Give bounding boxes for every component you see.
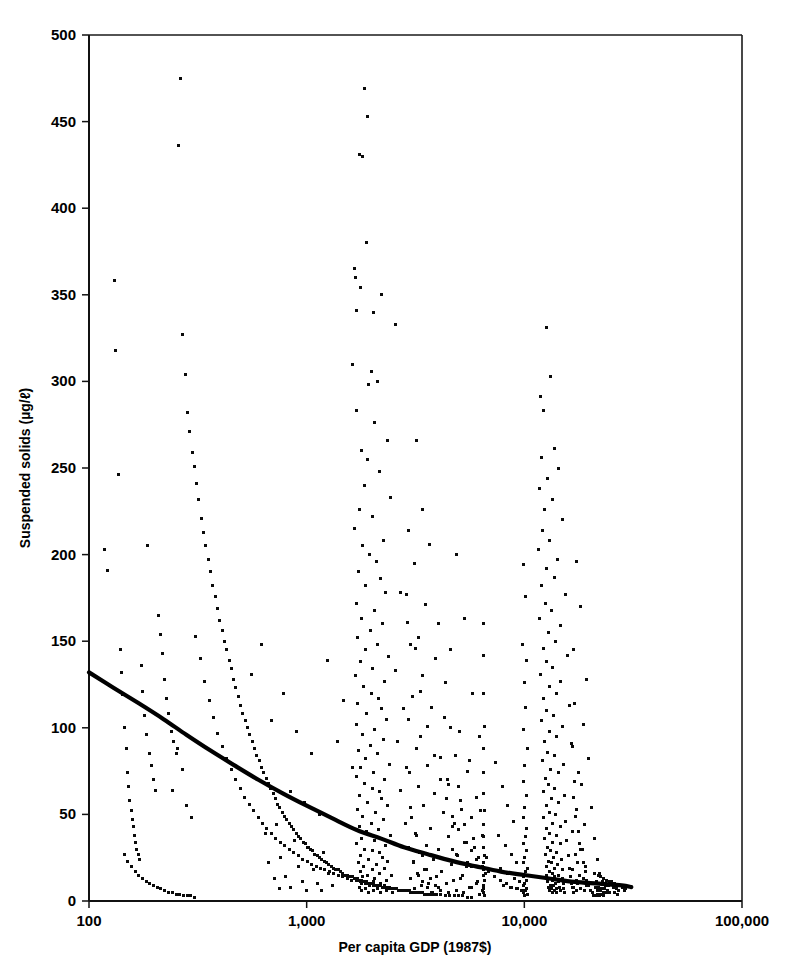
- data-point: [571, 745, 574, 748]
- data-point: [545, 865, 548, 868]
- data-point: [462, 891, 465, 894]
- data-point: [283, 844, 286, 847]
- data-point: [386, 439, 389, 442]
- data-point: [274, 797, 277, 800]
- data-point: [504, 844, 507, 847]
- data-point: [545, 827, 548, 830]
- data-point: [494, 761, 497, 764]
- data-point: [523, 856, 526, 859]
- data-point: [306, 860, 309, 863]
- data-point: [189, 894, 192, 897]
- data-point: [193, 465, 196, 468]
- data-point: [390, 887, 393, 890]
- data-point: [376, 752, 379, 755]
- data-point: [468, 759, 471, 762]
- data-point: [362, 685, 365, 688]
- data-point: [595, 894, 598, 897]
- data-point: [551, 891, 554, 894]
- data-point: [542, 409, 545, 412]
- data-point: [361, 544, 364, 547]
- data-point: [371, 667, 374, 670]
- data-point: [587, 757, 590, 760]
- data-point: [292, 851, 295, 854]
- data-point: [574, 853, 577, 856]
- data-point: [459, 877, 462, 880]
- data-point: [501, 785, 504, 788]
- data-point: [414, 647, 417, 650]
- data-point: [605, 879, 608, 882]
- data-point: [570, 742, 573, 745]
- data-point: [378, 851, 381, 854]
- data-point: [371, 515, 374, 518]
- data-point: [292, 828, 295, 831]
- data-point: [354, 674, 357, 677]
- data-point: [260, 643, 263, 646]
- data-point: [212, 716, 215, 719]
- data-point: [216, 607, 219, 610]
- data-point: [594, 886, 597, 889]
- data-point: [123, 853, 126, 856]
- data-point: [543, 740, 546, 743]
- data-point: [430, 706, 433, 709]
- data-point: [145, 880, 148, 883]
- data-point: [396, 740, 399, 743]
- data-point: [282, 692, 285, 695]
- data-point: [265, 777, 268, 780]
- data-point: [552, 714, 555, 717]
- data-point: [425, 844, 428, 847]
- data-point: [580, 783, 583, 786]
- data-point: [327, 872, 330, 875]
- data-point: [545, 709, 548, 712]
- x-axis-ticks: 1001,00010,000100,000: [76, 901, 769, 929]
- data-point: [434, 657, 437, 660]
- data-point: [363, 87, 366, 90]
- data-point: [520, 889, 523, 892]
- data-point: [202, 531, 205, 534]
- data-point: [525, 827, 528, 830]
- data-point: [419, 735, 422, 738]
- data-point: [243, 796, 246, 799]
- data-point: [357, 749, 360, 752]
- data-point: [358, 153, 361, 156]
- data-point: [297, 854, 300, 857]
- data-point: [572, 648, 575, 651]
- data-point: [381, 856, 384, 859]
- data-point: [299, 837, 302, 840]
- data-point: [447, 783, 450, 786]
- data-point: [426, 893, 429, 896]
- data-point: [351, 766, 354, 769]
- data-point: [375, 560, 378, 563]
- data-point: [432, 858, 435, 861]
- data-point: [525, 794, 528, 797]
- data-point: [357, 861, 360, 864]
- data-point: [346, 877, 349, 880]
- data-point: [387, 655, 390, 658]
- data-point: [381, 622, 384, 625]
- data-point: [409, 877, 412, 880]
- data-point: [275, 823, 278, 826]
- data-point: [138, 858, 141, 861]
- data-point: [357, 570, 360, 573]
- data-point: [123, 726, 126, 729]
- data-point: [421, 508, 424, 511]
- data-point: [113, 279, 116, 282]
- data-point: [509, 886, 512, 889]
- data-point: [565, 839, 568, 842]
- data-point: [443, 716, 446, 719]
- data-point: [278, 806, 281, 809]
- y-tick-label: 0: [68, 892, 76, 909]
- data-point: [363, 782, 366, 785]
- data-point: [353, 267, 356, 270]
- data-point: [482, 887, 485, 890]
- x-axis-title: Per capita GDP (1987$): [338, 939, 491, 955]
- data-point: [361, 733, 364, 736]
- data-point: [556, 558, 559, 561]
- data-point: [322, 851, 325, 854]
- data-point: [167, 891, 170, 894]
- data-point: [359, 880, 362, 883]
- data-point: [429, 827, 432, 830]
- data-point: [137, 853, 140, 856]
- data-point: [458, 730, 461, 733]
- data-point: [272, 792, 275, 795]
- data-point: [566, 654, 569, 657]
